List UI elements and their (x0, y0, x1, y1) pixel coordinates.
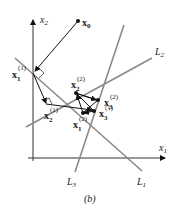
x2-2-sup: (2) (77, 75, 86, 83)
points (74, 19, 100, 115)
L2-label: L2 (154, 46, 165, 59)
constraint-lines (15, 25, 152, 172)
projection-diagram: x2 x1 L2 L1 L3 x0 x1 (1) x2 (1) x3 (1) x… (0, 0, 180, 216)
point-x3-2 (96, 98, 100, 102)
x3-2-sup: (2) (110, 93, 119, 101)
L3-label: L3 (66, 176, 77, 189)
iteration-path (33, 21, 98, 113)
figure-caption: (b) (84, 193, 96, 205)
x0-label: x0 (82, 17, 91, 30)
x1-2-sup: (2) (79, 115, 88, 123)
point-x3-1 (92, 109, 96, 113)
x2-axis-label: x2 (39, 14, 48, 27)
axes (28, 20, 165, 161)
x1-axis-label: x1 (158, 142, 167, 155)
right-angle-icon (39, 68, 44, 78)
x1-1-sup: (1) (18, 64, 27, 72)
path-x0-to-x11 (35, 21, 78, 71)
point-x0 (76, 19, 80, 23)
L1-label: L1 (136, 176, 146, 189)
x2-1-sup: (1) (50, 106, 59, 114)
